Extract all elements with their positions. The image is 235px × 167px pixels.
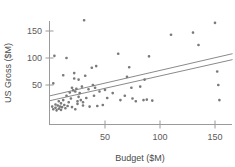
data-point (119, 99, 122, 102)
x-axis-ticks: 50100150 (100, 121, 223, 143)
data-point (60, 109, 63, 112)
data-point (216, 70, 219, 73)
data-point (131, 97, 134, 100)
data-point (98, 90, 101, 93)
y-axis-tick-label: 100 (27, 53, 42, 63)
data-point (117, 52, 120, 55)
data-point (146, 98, 149, 101)
data-point (82, 104, 85, 107)
data-point (69, 91, 72, 94)
data-point (74, 90, 77, 93)
data-point (124, 95, 127, 98)
data-point (61, 106, 64, 109)
data-point (197, 44, 200, 47)
data-point (75, 87, 78, 90)
data-point (126, 76, 129, 79)
data-point (148, 55, 151, 58)
data-point (74, 108, 77, 111)
data-point (135, 100, 138, 103)
data-point (192, 31, 195, 34)
data-point (53, 55, 56, 58)
data-point (83, 19, 86, 22)
data-point (111, 92, 114, 95)
data-point (82, 101, 85, 104)
y-axis-title: US Gross ($M) (3, 43, 13, 103)
data-point (52, 108, 55, 111)
data-point (59, 105, 62, 108)
data-point (71, 106, 74, 109)
data-point (67, 101, 70, 104)
data-point (84, 75, 87, 78)
scatter-plot-figure: 50100150 50100150 Budget ($M) US Gross (… (0, 0, 235, 167)
data-point (73, 77, 76, 80)
data-point (58, 100, 61, 103)
data-point (70, 97, 73, 100)
data-point (78, 92, 81, 95)
data-point (77, 96, 80, 99)
data-point (81, 85, 84, 88)
data-point (93, 95, 96, 98)
data-point (60, 102, 63, 105)
data-point (80, 99, 83, 102)
data-point (85, 97, 88, 100)
data-point (88, 105, 91, 108)
x-axis-tick-label: 150 (207, 132, 222, 142)
data-point (95, 65, 98, 68)
x-axis-tick-label: 50 (100, 132, 110, 142)
data-point (54, 106, 57, 109)
data-points-group (51, 19, 221, 112)
data-point (106, 97, 109, 100)
data-point (65, 57, 68, 60)
data-point (66, 105, 69, 108)
data-point (62, 74, 65, 77)
data-point (102, 104, 105, 107)
data-point (52, 82, 55, 85)
y-axis-tick-label: 50 (32, 80, 42, 90)
data-point (139, 85, 142, 88)
data-point (143, 78, 146, 81)
data-point (104, 89, 107, 92)
data-point (64, 107, 67, 110)
data-point (217, 84, 220, 87)
data-point (51, 105, 54, 108)
plot-canvas: 50100150 50100150 Budget ($M) US Gross (… (0, 0, 235, 167)
data-point (218, 99, 221, 102)
data-point (92, 84, 95, 87)
data-point (76, 100, 79, 103)
data-point (130, 86, 133, 89)
data-point (170, 33, 173, 36)
data-point (94, 86, 97, 89)
x-axis-tick-label: 100 (152, 132, 167, 142)
data-point (96, 105, 99, 108)
data-point (55, 109, 58, 112)
data-point (62, 99, 65, 102)
x-axis-title: Budget ($M) (115, 153, 165, 163)
data-point (73, 72, 76, 75)
data-point (76, 103, 79, 106)
regression-lines-group (50, 54, 233, 101)
data-point (142, 99, 145, 102)
data-point (128, 66, 131, 69)
data-point (63, 104, 66, 107)
data-point (71, 86, 74, 89)
data-point (151, 99, 154, 102)
data-point (214, 22, 217, 25)
data-point (91, 66, 94, 69)
data-point (87, 88, 90, 91)
data-point (77, 78, 80, 81)
data-point (65, 95, 68, 98)
y-axis-tick-label: 150 (27, 26, 42, 36)
